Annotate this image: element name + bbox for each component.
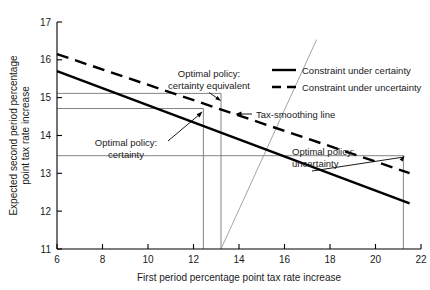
y-tick-label: 12 <box>40 206 52 217</box>
annotation-line-1: Optimal policy: <box>178 68 240 79</box>
x-tick-label: 20 <box>370 254 382 265</box>
legend-label-uncertainty: Constraint under uncertainty <box>302 82 422 93</box>
x-tick-label: 12 <box>188 254 200 265</box>
y-tick-label: 14 <box>40 130 52 141</box>
y-tick-label: 16 <box>40 54 52 65</box>
y-tick-label: 11 <box>41 244 52 255</box>
x-tick-label: 22 <box>415 254 427 265</box>
annotation-line-2: certainty <box>108 149 144 160</box>
y-tick-label: 17 <box>40 17 52 28</box>
y-tick-label: 15 <box>40 92 52 103</box>
x-tick-label: 8 <box>100 254 106 265</box>
chart-background <box>0 0 430 290</box>
chart-svg: 17 16 15 14 13 12 11 6 8 10 12 14 16 18 … <box>0 0 430 290</box>
y-tick-label: 13 <box>40 168 52 179</box>
x-tick-label: 16 <box>279 254 291 265</box>
x-tick-label: 18 <box>324 254 336 265</box>
annotation-line-2: certainty equivalent <box>168 80 250 91</box>
x-tick-label: 14 <box>233 254 245 265</box>
x-tick-label: 10 <box>142 254 154 265</box>
annotation-line-2: uncertainty <box>292 158 339 169</box>
annotation-line-1: Optimal policy: <box>292 146 354 157</box>
chart-figure: 17 16 15 14 13 12 11 6 8 10 12 14 16 18 … <box>0 0 430 290</box>
x-axis-title: First period percentage point tax rate i… <box>137 272 341 283</box>
y-axis-title-line-1: Expected second period percentage <box>8 55 19 216</box>
annotation-line-1: Optimal policy: <box>95 137 157 148</box>
legend-label-certainty: Constraint under certainty <box>302 65 411 76</box>
x-tick-label: 6 <box>54 254 60 265</box>
y-axis-title-line-2: point tax rate increase <box>20 86 31 185</box>
annotation-line-1: Tax-smoothing line <box>256 109 335 120</box>
